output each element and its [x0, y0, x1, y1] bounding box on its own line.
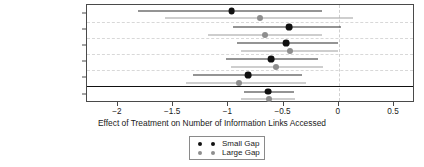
x-axis-tick-label: 0 [336, 107, 341, 116]
x-axis-tick [172, 102, 173, 106]
legend-item-large-gap: Large Gap [193, 148, 260, 157]
x-axis-tick [338, 102, 339, 106]
effect-point-marker [286, 24, 293, 31]
legend-label-small-gap: Small Gap [222, 139, 259, 148]
effect-point-marker [265, 88, 272, 95]
plot-area [86, 4, 414, 102]
legend-keys-large-gap [193, 151, 219, 155]
row-gridline [87, 22, 413, 23]
effect-point-marker [287, 48, 293, 54]
x-axis-tick-label: −0.5 [274, 107, 290, 116]
x-axis-tick-label: 0.5 [387, 107, 398, 116]
effect-point-marker [236, 80, 242, 86]
effect-point-marker [282, 40, 289, 47]
effect-point-marker [266, 96, 272, 102]
effect-point-marker [273, 64, 279, 70]
legend-dot-icon [198, 142, 202, 146]
x-axis-tick-label: −1 [223, 107, 232, 116]
confidence-interval-bar [186, 82, 305, 83]
x-axis-tick [227, 102, 228, 106]
x-axis-tick [117, 102, 118, 106]
x-axis-tick-label: −2 [112, 107, 121, 116]
x-axis-tick [393, 102, 394, 106]
pooled-separator-line [87, 86, 413, 87]
legend-dot-icon [211, 142, 215, 146]
row-gridline [87, 54, 413, 55]
legend-keys-small-gap [193, 142, 219, 146]
row-gridline [87, 38, 413, 39]
legend: Small Gap Large Gap [189, 136, 265, 160]
effect-point-marker [262, 32, 268, 38]
x-axis-tick [283, 102, 284, 106]
row-gridline [87, 70, 413, 71]
effect-point-marker [245, 72, 252, 79]
x-axis-title: Effect of Treatment on Number of Informa… [0, 118, 424, 128]
effect-point-marker [257, 15, 263, 21]
legend-label-large-gap: Large Gap [222, 148, 260, 157]
legend-item-small-gap: Small Gap [193, 139, 260, 148]
x-axis-tick-label: −1.5 [164, 107, 180, 116]
effect-point-marker [228, 8, 235, 15]
effect-point-marker [268, 56, 275, 63]
legend-dot-icon [211, 151, 215, 155]
forest-plot-figure: Canada 2014Australia 2016Canada 2016Engl… [0, 0, 424, 167]
legend-dot-icon [198, 151, 202, 155]
